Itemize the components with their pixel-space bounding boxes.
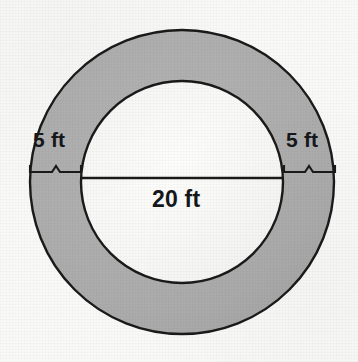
annulus-diagram — [0, 0, 358, 362]
label-right-ring-width: 5 ft — [286, 128, 318, 152]
label-inner-diameter: 20 ft — [152, 186, 200, 213]
figure-canvas: 5 ft 5 ft 20 ft — [0, 0, 358, 362]
label-left-ring-width: 5 ft — [33, 128, 65, 152]
